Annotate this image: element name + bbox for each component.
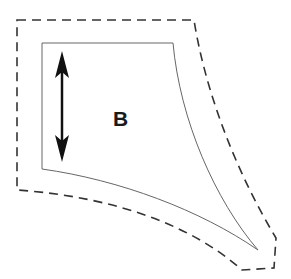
pattern-diagram: B [0, 0, 291, 279]
piece-label: B [113, 107, 128, 131]
grainline-arrow-icon [55, 51, 69, 162]
seam-line [42, 43, 258, 250]
cutting-line [17, 20, 276, 270]
